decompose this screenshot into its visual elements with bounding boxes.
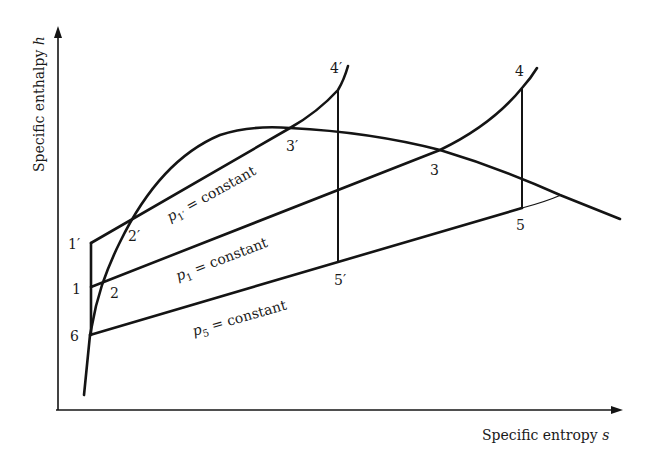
point-labels: 1′ 2′ 3′ 4′ 5′ 1 2 3 4 5 6 bbox=[68, 60, 525, 344]
isobar-label-p1: p1 = constant bbox=[173, 234, 271, 287]
point-1: 1 bbox=[72, 281, 81, 297]
x-axis-label: Specific entropy s bbox=[482, 427, 609, 443]
point-2: 2 bbox=[110, 285, 119, 301]
isobar-p1prime bbox=[91, 66, 348, 243]
y-axis-label: Specific enthalpy h bbox=[31, 36, 47, 172]
isobar-p5 bbox=[90, 208, 522, 335]
x-axis-arrow-icon bbox=[611, 406, 623, 414]
y-axis-arrow-icon bbox=[54, 26, 62, 38]
isobar-label-p5: p5 = constant bbox=[190, 297, 289, 342]
saturation-dome bbox=[84, 127, 620, 395]
point-4: 4 bbox=[515, 63, 524, 79]
isobar-p5-extension bbox=[522, 195, 561, 208]
isobar-p1 bbox=[91, 68, 537, 287]
point-4prime: 4′ bbox=[330, 60, 342, 76]
point-2prime: 2′ bbox=[128, 228, 140, 244]
point-5: 5 bbox=[516, 217, 525, 233]
point-3: 3 bbox=[430, 162, 439, 178]
h-s-diagram: Specific enthalpy h Specific entropy s 1… bbox=[0, 0, 653, 461]
point-3prime: 3′ bbox=[286, 138, 298, 154]
point-6: 6 bbox=[70, 328, 79, 344]
point-1prime: 1′ bbox=[68, 236, 80, 252]
point-5prime: 5′ bbox=[334, 272, 346, 288]
